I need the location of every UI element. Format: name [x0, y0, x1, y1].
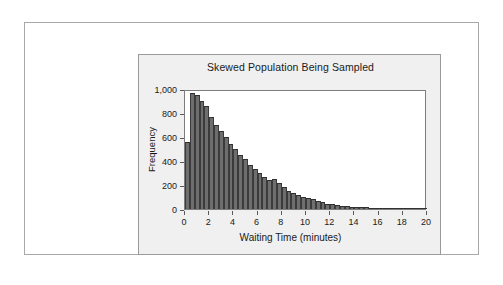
y-axis-title: Frequency [146, 120, 157, 180]
x-tick-mark [353, 211, 354, 215]
x-tick-label: 8 [278, 217, 283, 227]
x-tick-label: 0 [181, 217, 186, 227]
x-axis-title: Waiting Time (minutes) [139, 232, 442, 243]
x-tick-label: 4 [230, 217, 235, 227]
histogram-bar [422, 208, 427, 209]
y-tick-label: 200 [139, 181, 177, 191]
y-tick-mark [180, 186, 184, 187]
x-tick-label: 12 [324, 217, 334, 227]
x-tick-label: 14 [348, 217, 358, 227]
x-tick-label: 18 [397, 217, 407, 227]
x-tick-mark [281, 211, 282, 215]
x-tick-label: 2 [206, 217, 211, 227]
chart-panel: Skewed Population Being Sampled 02004006… [138, 54, 441, 255]
chart-title: Skewed Population Being Sampled [139, 61, 442, 73]
y-tick-mark [180, 90, 184, 91]
y-tick-mark [180, 138, 184, 139]
plot-area [184, 90, 426, 210]
x-tick-mark [208, 211, 209, 215]
x-tick-label: 16 [373, 217, 383, 227]
x-tick-mark [184, 211, 185, 215]
x-tick-mark [426, 211, 427, 215]
y-tick-label: 0 [139, 205, 177, 215]
x-tick-mark [305, 211, 306, 215]
y-tick-label: 800 [139, 109, 177, 119]
x-tick-label: 20 [421, 217, 431, 227]
x-tick-label: 6 [254, 217, 259, 227]
x-tick-mark [378, 211, 379, 215]
x-tick-mark [402, 211, 403, 215]
x-tick-label: 10 [300, 217, 310, 227]
y-tick-mark [180, 162, 184, 163]
histogram-bars [185, 91, 425, 209]
y-tick-mark [180, 114, 184, 115]
y-tick-label: 1,000 [139, 85, 177, 95]
x-tick-mark [329, 211, 330, 215]
x-tick-mark [232, 211, 233, 215]
figure-root: Skewed Population Being Sampled 02004006… [0, 0, 503, 285]
x-tick-mark [257, 211, 258, 215]
figure-card: Skewed Population Being Sampled 02004006… [24, 22, 479, 255]
